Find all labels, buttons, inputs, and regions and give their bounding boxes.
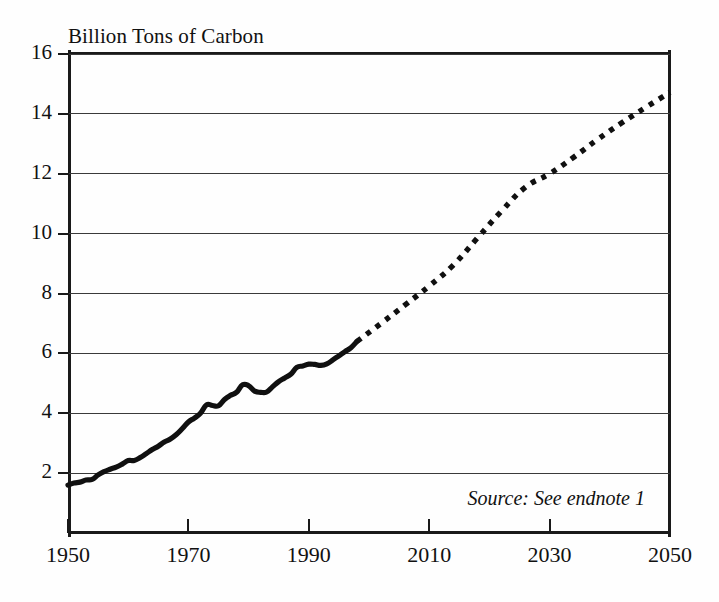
x-axis-line <box>68 531 671 534</box>
y-tick-2 <box>58 472 69 474</box>
x-tick-1990 <box>308 519 310 533</box>
x-tick-2030 <box>549 519 551 533</box>
y-axis-label-4: 4 <box>12 401 52 422</box>
y-tick-12 <box>58 173 69 175</box>
gridline-14 <box>68 113 670 114</box>
y-tick-6 <box>58 352 69 354</box>
y-tick-16 <box>58 53 69 55</box>
y-axis-label-16: 16 <box>12 42 52 63</box>
chart-title: Billion Tons of Carbon <box>68 24 264 49</box>
series-projection-line <box>357 92 670 341</box>
gridline-10 <box>68 233 670 234</box>
x-axis-label-1950: 1950 <box>28 543 108 567</box>
y-tick-4 <box>58 412 69 414</box>
chart-figure: Billion Tons of Carbon 161412108642 1950… <box>0 0 719 602</box>
y-axis-label-6: 6 <box>12 341 52 362</box>
series-layer <box>0 0 719 602</box>
y-axis-label-10: 10 <box>12 222 52 243</box>
y-axis-label-14: 14 <box>12 102 52 123</box>
y-tick-14 <box>58 113 69 115</box>
x-tick-1970 <box>187 519 189 533</box>
source-note: Source: See endnote 1 <box>467 487 645 510</box>
gridline-2 <box>68 473 670 474</box>
y-axis-label-2: 2 <box>12 461 52 482</box>
gridline-12 <box>68 173 670 174</box>
x-axis-label-2050: 2050 <box>630 543 710 567</box>
x-tick-2010 <box>428 519 430 533</box>
gridline-8 <box>68 293 670 294</box>
gridline-16 <box>68 54 670 55</box>
y-tick-8 <box>58 293 69 295</box>
gridline-6 <box>68 353 670 354</box>
y-tick-10 <box>58 233 69 235</box>
x-tick-2050 <box>669 519 671 533</box>
y-axis-label-8: 8 <box>12 282 52 303</box>
x-axis-label-2030: 2030 <box>510 543 590 567</box>
x-axis-label-1990: 1990 <box>269 543 349 567</box>
x-axis-label-2010: 2010 <box>389 543 469 567</box>
x-tick-1950 <box>67 519 69 533</box>
gridline-4 <box>68 413 670 414</box>
y-axis-label-12: 12 <box>12 162 52 183</box>
x-axis-label-1970: 1970 <box>148 543 228 567</box>
